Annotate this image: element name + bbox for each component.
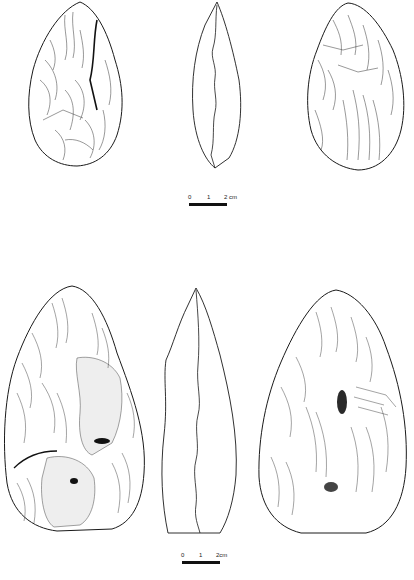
scale-bar-2-segment-dark bbox=[182, 561, 201, 564]
scale-bar-1-label-2: 2 cm bbox=[224, 194, 237, 200]
scale-bar-2-label-0: 0 bbox=[181, 552, 184, 558]
handaxe-1-front-face-drawing bbox=[25, 0, 127, 168]
handaxe-2-back-face-drawing bbox=[256, 287, 410, 535]
scale-bar-1-label-0: 0 bbox=[188, 194, 191, 200]
scale-bar-1-label-1: 1 bbox=[207, 194, 210, 200]
scale-bar-1-segment-dark bbox=[189, 203, 208, 206]
handaxe-1-back-face-drawing bbox=[303, 0, 407, 172]
handaxe-2-side-profile bbox=[158, 285, 243, 535]
handaxe-1-front-face bbox=[25, 0, 127, 168]
scale-bar-2: 0 1 2cm bbox=[181, 552, 241, 574]
handaxe-2-front-face bbox=[2, 283, 147, 533]
handaxe-1-side-profile-drawing bbox=[185, 0, 245, 170]
scale-bar-1-segment-light bbox=[208, 203, 227, 206]
scale-bar-2-label-1: 1 bbox=[199, 552, 202, 558]
handaxe-1-side-profile bbox=[185, 0, 245, 170]
handaxe-2-back-face bbox=[256, 287, 410, 535]
handaxe-1-back-face bbox=[303, 0, 407, 172]
handaxe-2-front-face-drawing bbox=[2, 283, 147, 533]
scale-bar-1: 0 1 2 cm bbox=[188, 194, 248, 216]
scale-bar-2-label-2: 2cm bbox=[216, 552, 227, 558]
scale-bar-2-segment-light bbox=[201, 561, 220, 564]
handaxe-2-side-profile-drawing bbox=[158, 285, 243, 535]
